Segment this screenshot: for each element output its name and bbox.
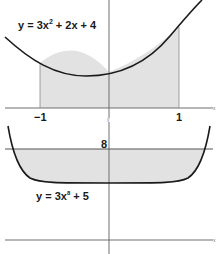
top-graph: y = 3x2 + 2x + 4 −1 1 y x [5, 0, 216, 123]
top-y-axis-label: y [107, 116, 110, 122]
bottom-equation: y = 3x8 + 5 [36, 190, 89, 202]
top-equation: y = 3x2 + 2x + 4 [18, 18, 97, 31]
tick-label-neg1: −1 [34, 111, 47, 123]
top-x-axis-label: x [213, 105, 216, 111]
tick-label-1: 1 [176, 111, 182, 123]
line-label-8: 8 [101, 138, 107, 150]
bottom-graph: 8 y = 3x8 + 5 x [5, 122, 216, 254]
figure: y = 3x2 + 2x + 4 −1 1 y x 8 y = 3x8 + 5 … [0, 0, 217, 254]
bottom-x-axis-label: x [213, 237, 216, 243]
